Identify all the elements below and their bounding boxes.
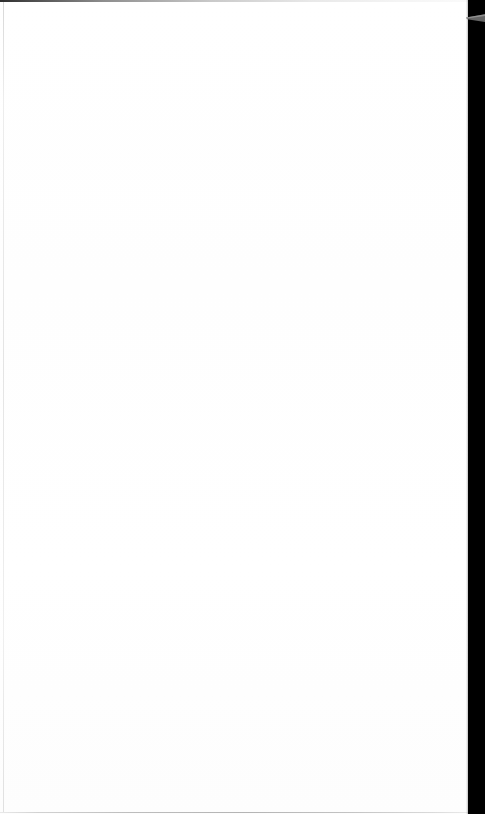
- page-content-text: [4, 3, 466, 810]
- page-content-area[interactable]: [4, 3, 466, 810]
- page-top-border: [0, 0, 468, 2]
- page-bottom-edge: [0, 812, 468, 813]
- document-page[interactable]: [0, 0, 468, 814]
- page-strip-seam: [466, 0, 468, 814]
- screenshot-root: [0, 0, 485, 814]
- right-background-strip: [468, 0, 485, 814]
